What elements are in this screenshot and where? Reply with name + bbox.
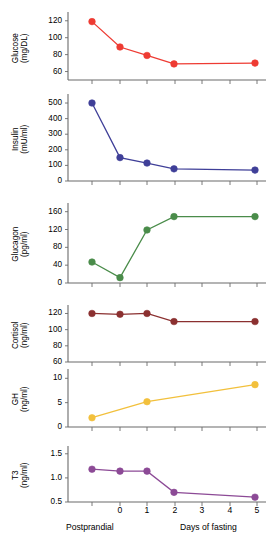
x-tick-label-5: 5 [249,505,265,515]
data-point-glucagon-2 [144,227,151,234]
y-tick-t3-2: 1.5 [22,449,62,458]
data-point-glucagon-0 [89,259,96,266]
panel-glucagon: Glucagon (pg/ml)04080120160 [0,0,271,551]
y-tick-cortisol-3: 120 [22,308,62,317]
panel-t3: T3 (ng/ml)0.51.01.5 [0,0,271,551]
y-tick-gh-2: 10 [22,373,62,382]
y-tick-t3-1: 1.0 [22,473,62,482]
y-tick-cortisol-0: 60 [22,357,62,366]
plot-t3 [0,0,271,551]
data-point-gh-2 [252,381,259,388]
data-point-glucose-0 [89,18,96,25]
y-tick-insulin-0: 0 [22,176,62,185]
data-point-t3-3 [171,489,178,496]
y-tick-insulin-2: 200 [22,145,62,154]
data-point-insulin-0 [89,100,96,107]
hormone-timecourse-figure: Glucose (mg/DL)6080100120Insulin (mU/ml)… [0,0,271,551]
panel-insulin: Insulin (mU/ml)0100200300400500 [0,0,271,551]
y-tick-t3-0: 0.5 [22,497,62,506]
panel-glucose: Glucose (mg/DL)6080100120 [0,0,271,551]
data-point-cortisol-4 [252,318,259,325]
x-tick-label-3: 3 [194,505,210,515]
x-tick-label-2: 2 [167,505,183,515]
y-tick-glucose-3: 120 [22,16,62,25]
y-tick-gh-1: 5 [22,398,62,407]
y-axis-label-gh: GH (ng/ml) [11,363,29,435]
data-point-glucose-1 [117,44,124,51]
series-line-glucagon [92,217,255,278]
x-tick-label-4: 4 [222,505,238,515]
y-tick-glucose-1: 80 [22,50,62,59]
data-point-gh-1 [144,398,151,405]
x-tick-label-0: 0 [112,505,128,515]
data-point-glucose-4 [252,60,259,67]
plot-glucose [0,0,271,551]
series-line-gh [92,385,255,418]
data-point-glucagon-4 [252,213,259,220]
plot-gh [0,0,271,551]
data-point-cortisol-3 [171,318,178,325]
data-point-t3-2 [144,468,151,475]
plot-glucagon [0,0,271,551]
y-tick-gh-0: 0 [22,422,62,431]
series-line-glucose [92,22,255,64]
y-axis-label-t3: T3 (ng/ml) [11,439,29,511]
plot-cortisol [0,0,271,551]
data-point-glucose-3 [171,61,178,68]
y-tick-glucagon-2: 80 [22,242,62,251]
data-point-cortisol-2 [144,310,151,317]
y-tick-glucagon-1: 40 [22,260,62,269]
y-tick-insulin-4: 400 [22,114,62,123]
series-line-t3 [92,469,255,497]
x-tick-label-1: 1 [139,505,155,515]
y-tick-glucose-0: 60 [22,67,62,76]
y-tick-cortisol-2: 100 [22,325,62,334]
y-tick-insulin-3: 300 [22,129,62,138]
data-point-glucagon-3 [171,213,178,220]
series-line-cortisol [92,313,255,321]
panel-gh: GH (ng/ml)0510 [0,0,271,551]
y-tick-insulin-5: 500 [22,98,62,107]
y-tick-glucagon-3: 120 [22,225,62,234]
y-axis-label-glucose: Glucose (mg/DL) [11,12,29,84]
y-axis-label-insulin: Insulin (mU/ml) [11,103,29,175]
y-tick-glucagon-0: 0 [22,278,62,287]
panel-cortisol: Cortisol (ng/ml)6080100120 [0,0,271,551]
data-point-glucagon-1 [117,274,124,281]
data-point-gh-0 [89,414,96,421]
y-tick-insulin-1: 100 [22,160,62,169]
data-point-cortisol-1 [117,311,124,318]
data-point-insulin-1 [117,154,124,161]
data-point-t3-4 [252,494,259,501]
data-point-t3-0 [89,466,96,473]
y-axis-label-glucagon: Glucagon (pg/ml) [11,208,29,280]
data-point-cortisol-0 [89,310,96,317]
x-axis-caption-postprandial: Postprandial [66,522,114,532]
y-tick-cortisol-1: 80 [22,341,62,350]
data-point-insulin-2 [144,160,151,167]
plot-insulin [0,0,271,551]
y-tick-glucose-2: 100 [22,33,62,42]
data-point-insulin-4 [252,167,259,174]
data-point-glucose-2 [144,52,151,59]
y-tick-glucagon-4: 160 [22,207,62,216]
data-point-insulin-3 [171,166,178,173]
y-axis-label-cortisol: Cortisol (ng/ml) [11,299,29,371]
series-line-insulin [92,103,255,170]
data-point-t3-1 [117,468,124,475]
x-axis-caption-days-of-fasting: Days of fasting [180,522,237,532]
